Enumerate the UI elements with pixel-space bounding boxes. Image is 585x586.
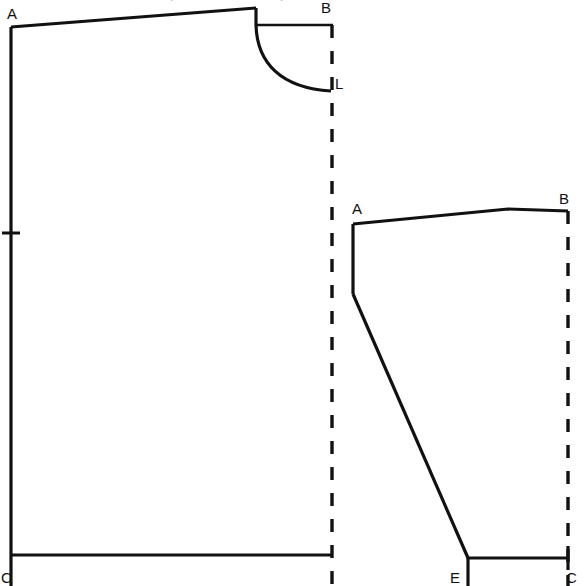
left-piece-neckline-curve (256, 25, 331, 91)
pattern-drawing-canvas (0, 0, 585, 586)
left-piece-shoulder-line (11, 8, 256, 27)
label-right-piece-point-b: B (559, 191, 569, 206)
right-piece-side-seam-line (353, 294, 468, 558)
label-left-piece-point-b: B (321, 0, 331, 15)
label-left-piece-point-a: A (7, 6, 17, 21)
label-right-piece-point-c: C (566, 572, 577, 585)
label-left-piece-point-c: C (1, 572, 12, 585)
label-left-piece-point-l: L (335, 76, 343, 91)
pattern-drafting-figure: pattern draft diagram (0, 0, 585, 586)
label-right-piece-point-a: A (352, 201, 362, 216)
label-right-piece-point-e: E (450, 572, 460, 585)
right-piece-top-edge-line (353, 209, 568, 224)
clipped-labels-below: C E C (0, 572, 585, 586)
